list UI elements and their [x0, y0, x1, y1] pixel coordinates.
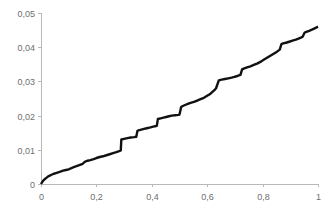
- x-tick-label: 1: [316, 192, 321, 202]
- chart-container: 00,010,020,030,040,05 00,20,40,60,81: [0, 0, 329, 212]
- x-tick-label: 0,8: [257, 192, 270, 202]
- y-tick-label: 0,02: [17, 112, 35, 122]
- x-tick-label: 0,2: [90, 192, 103, 202]
- y-tick-label: 0: [30, 180, 35, 190]
- y-tick-label: 0,01: [17, 146, 35, 156]
- y-tick-label: 0,05: [17, 9, 35, 19]
- x-tick-label: 0,6: [201, 192, 214, 202]
- y-tick-label: 0,03: [17, 77, 35, 87]
- x-tick-label: 0: [39, 192, 44, 202]
- y-axis-ticks: [38, 14, 41, 185]
- y-axis-group: 00,010,020,030,040,05: [17, 9, 41, 190]
- step-function-chart: 00,010,020,030,040,05 00,20,40,60,81: [0, 0, 329, 212]
- x-axis-group: 00,20,40,60,81: [39, 184, 321, 202]
- x-tick-label: 0,4: [146, 192, 159, 202]
- x-axis-tick-labels: 00,20,40,60,81: [39, 192, 321, 202]
- y-tick-label: 0,04: [17, 43, 35, 53]
- data-series-cumulative: [41, 27, 318, 184]
- y-axis-tick-labels: 00,010,020,030,040,05: [17, 9, 35, 190]
